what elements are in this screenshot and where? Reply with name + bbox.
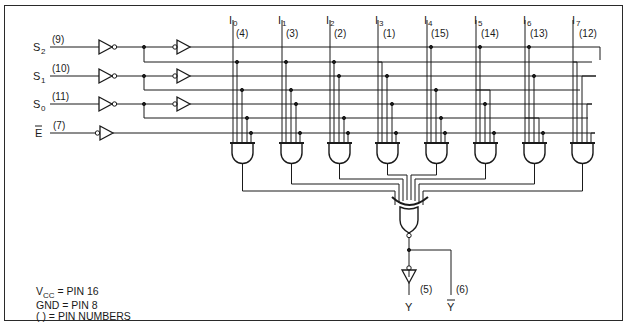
svg-text:0: 0 [41, 104, 46, 113]
s1-input-path [50, 69, 596, 90]
svg-text:I: I [523, 14, 526, 26]
svg-text:Y: Y [447, 301, 455, 313]
label-i7: I 7 (12) [572, 14, 597, 39]
label-s2: S 2 (9) [33, 34, 64, 56]
svg-text:(7): (7) [53, 120, 65, 131]
svg-text:(1): (1) [383, 28, 395, 39]
output-inverter [402, 266, 416, 295]
svg-text:I: I [278, 14, 281, 26]
and-gate-0 [230, 20, 395, 205]
svg-text:S: S [33, 41, 40, 53]
svg-text:(6): (6) [456, 284, 468, 295]
label-s0: S 0 (11) [33, 91, 69, 113]
svg-text:6: 6 [527, 19, 532, 28]
svg-text:(2): (2) [334, 28, 346, 39]
svg-text:(14): (14) [481, 28, 499, 39]
svg-text:(13): (13) [530, 28, 548, 39]
svg-text:(15): (15) [431, 28, 449, 39]
svg-text:Y: Y [405, 301, 413, 313]
svg-text:(4): (4) [236, 28, 248, 39]
svg-text:I: I [375, 14, 378, 26]
svg-text:S: S [33, 70, 40, 82]
svg-text:I: I [229, 14, 232, 26]
svg-text:I: I [474, 14, 477, 26]
svg-text:2: 2 [41, 47, 46, 56]
s2-input-path [50, 40, 600, 62]
svg-text:(3): (3) [286, 28, 298, 39]
svg-text:(11): (11) [52, 91, 69, 102]
label-s1: S 1 (10) [33, 63, 70, 85]
svg-text:3: 3 [379, 19, 384, 28]
label-i4: I 4 (15) [424, 14, 449, 39]
enable-input-path [50, 126, 595, 140]
s0-input-path [50, 97, 592, 118]
svg-text:I: I [424, 14, 427, 26]
label-i0: I 0 (4) [229, 14, 248, 39]
label-enable: E (7) [35, 120, 65, 139]
svg-text:1: 1 [41, 76, 46, 85]
label-i5: I 5 (14) [474, 14, 499, 39]
svg-text:4: 4 [428, 19, 433, 28]
label-i1: I 1 (3) [278, 14, 298, 39]
svg-text:1: 1 [282, 19, 287, 28]
svg-text:2: 2 [330, 19, 335, 28]
svg-text:S: S [33, 98, 40, 110]
label-i2: I 2 (2) [326, 14, 346, 39]
svg-text:(9): (9) [52, 34, 64, 45]
svg-text:I: I [572, 14, 575, 26]
svg-text:0: 0 [233, 19, 238, 28]
svg-text:(12): (12) [579, 28, 597, 39]
label-i6: I 6 (13) [523, 14, 548, 39]
svg-text:5: 5 [478, 19, 483, 28]
svg-text:I: I [326, 14, 329, 26]
svg-text:E: E [35, 127, 42, 139]
pin-numbers-note: ( ) = PIN NUMBERS [36, 310, 131, 322]
and-gate-7 [423, 20, 600, 205]
svg-text:7: 7 [576, 19, 581, 28]
svg-text:(5): (5) [420, 284, 432, 295]
logic-diagram: S 2 (9) S 1 (10) S 0 (11) E (7) I 0 (4) … [0, 0, 628, 325]
nor-gate [392, 197, 451, 295]
label-output-y-bar: (6) Y [447, 284, 468, 313]
svg-text:(10): (10) [52, 63, 70, 74]
